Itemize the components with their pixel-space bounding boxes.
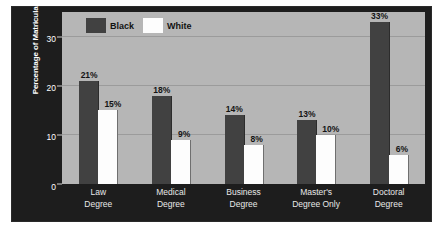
x-axis-label-line: Degree bbox=[373, 199, 405, 211]
bar-value-label: 18% bbox=[153, 85, 170, 95]
x-axis-category-label: MedicalDegree bbox=[156, 187, 185, 210]
legend-swatch-black bbox=[86, 18, 106, 33]
bar-white[interactable]: 10% bbox=[316, 135, 336, 184]
bar-value-label: 8% bbox=[251, 134, 263, 144]
bar-white[interactable]: 9% bbox=[171, 140, 191, 184]
bar-chart-figure: Percentage of Matriculants 0102030 21%15… bbox=[0, 0, 445, 235]
legend-swatch-white bbox=[143, 18, 163, 33]
x-axis-label-line: Degree Only bbox=[292, 199, 340, 211]
bar-black[interactable]: 33% bbox=[370, 22, 390, 184]
x-axis-category-label: BusinessDegree bbox=[226, 187, 261, 210]
x-axis-category-label: DoctoralDegree bbox=[373, 187, 405, 210]
bar-group: 13%10% bbox=[297, 12, 335, 184]
x-axis-label-line: Medical bbox=[156, 187, 185, 199]
x-axis-label-line: Business bbox=[226, 187, 261, 199]
x-axis-label-line: Doctoral bbox=[373, 187, 405, 199]
y-tick-label: 20 bbox=[47, 83, 56, 88]
bar-black[interactable]: 21% bbox=[79, 81, 99, 184]
x-axis-labels: LawDegreeMedicalDegreeBusinessDegreeMast… bbox=[62, 187, 425, 219]
x-axis-label-line: Master's bbox=[292, 187, 340, 199]
legend-label: Black bbox=[110, 21, 134, 31]
y-axis-ticks: 0102030 bbox=[30, 12, 62, 184]
bar-group: 18%9% bbox=[152, 12, 190, 184]
bar-white[interactable]: 6% bbox=[389, 155, 409, 184]
bar-value-label: 15% bbox=[104, 99, 121, 109]
bar-value-label: 9% bbox=[178, 129, 190, 139]
legend-label: White bbox=[167, 21, 192, 31]
plot-area: 21%15%18%9%14%8%13%10%33%6% bbox=[62, 12, 425, 184]
legend-item-white[interactable]: White bbox=[143, 18, 192, 33]
bar-white[interactable]: 15% bbox=[98, 110, 118, 184]
y-tick-label: 0 bbox=[51, 182, 56, 187]
bar-value-label: 10% bbox=[322, 124, 339, 134]
bar-black[interactable]: 13% bbox=[297, 120, 317, 184]
x-axis-label-line: Degree bbox=[84, 199, 112, 211]
y-tick-label: 10 bbox=[47, 132, 56, 137]
bar-group: 33%6% bbox=[370, 12, 408, 184]
y-tick-label: 30 bbox=[47, 34, 56, 39]
x-axis-label-line: Law bbox=[84, 187, 112, 199]
bar-value-label: 14% bbox=[226, 104, 243, 114]
bar-black[interactable]: 18% bbox=[152, 96, 172, 184]
bar-black[interactable]: 14% bbox=[225, 115, 245, 184]
bar-value-label: 33% bbox=[371, 12, 388, 21]
x-axis-category-label: Master'sDegree Only bbox=[292, 187, 340, 210]
x-axis-label-line: Degree bbox=[226, 199, 261, 211]
x-axis-category-label: LawDegree bbox=[84, 187, 112, 210]
x-axis-label-line: Degree bbox=[156, 199, 185, 211]
bar-value-label: 21% bbox=[81, 70, 98, 80]
bar-group: 21%15% bbox=[79, 12, 117, 184]
bar-white[interactable]: 8% bbox=[244, 145, 264, 184]
chart-legend: BlackWhite bbox=[86, 18, 192, 33]
bar-value-label: 13% bbox=[298, 109, 315, 119]
bar-value-label: 6% bbox=[396, 144, 408, 154]
bar-group: 14%8% bbox=[225, 12, 263, 184]
legend-item-black[interactable]: Black bbox=[86, 18, 134, 33]
